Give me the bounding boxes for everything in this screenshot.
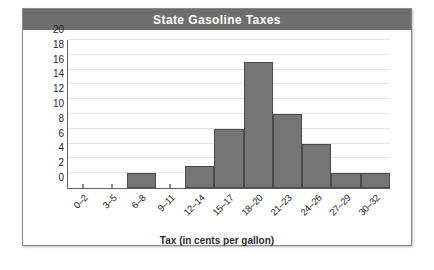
page-title: State Gasoline Taxes — [153, 13, 281, 27]
bar-slot — [156, 40, 185, 188]
bar — [331, 173, 360, 188]
y-axis-tick-label: 14 — [53, 68, 64, 79]
y-axis-tick-label: 16 — [53, 53, 64, 64]
x-tick-slot: 21–23 — [272, 190, 301, 238]
y-axis-tick-label: 2 — [58, 157, 64, 168]
x-axis-tick-label: 6–8 — [129, 192, 148, 211]
y-axis-tick-label: 18 — [53, 38, 64, 49]
bar — [214, 129, 243, 188]
bar-slot — [302, 40, 331, 188]
chart-title-bar: State Gasoline Taxes — [23, 9, 411, 30]
bar-slot — [68, 40, 97, 188]
bar-slot — [361, 40, 390, 188]
x-axis-tick-label: 0–2 — [71, 192, 90, 211]
x-tick-slot: 0–2 — [67, 190, 96, 238]
bar-slot — [185, 40, 214, 188]
y-axis-tick-label: 8 — [58, 112, 64, 123]
bar — [169, 184, 171, 188]
x-tick-slot: 3–5 — [96, 190, 125, 238]
x-axis-tick-label: 24–26 — [298, 192, 324, 218]
x-axis-tick-labels: 0–23–56–89–1112–1415–1718–2021–2324–2627… — [67, 190, 389, 238]
x-tick-slot: 18–20 — [243, 190, 272, 238]
y-axis-tick-label: 6 — [58, 127, 64, 138]
bar-slot — [244, 40, 273, 188]
x-axis-tick-label: 9–11 — [156, 192, 178, 214]
bar — [82, 184, 84, 188]
x-axis-title: Tax (in cents per gallon) — [23, 235, 411, 246]
y-axis-tick-label: 4 — [58, 142, 64, 153]
x-axis-tick-label: 21–23 — [269, 192, 295, 218]
bar — [302, 144, 331, 188]
chart-figure: State Gasoline Taxes Number of states 02… — [22, 8, 412, 246]
bar — [185, 166, 214, 188]
x-tick-slot: 30–32 — [360, 190, 389, 238]
bar — [361, 173, 390, 188]
bar — [244, 62, 273, 188]
x-axis-tick-label: 3–5 — [100, 192, 119, 211]
bar — [273, 114, 302, 188]
y-axis-tick-label: 20 — [53, 24, 64, 35]
bar — [127, 173, 156, 188]
bar-series — [68, 40, 390, 188]
y-axis-tick-label: 12 — [53, 83, 64, 94]
x-axis-tick-label: 15–17 — [210, 192, 236, 218]
plot-area: 02468101214161820 — [67, 40, 390, 189]
x-tick-slot: 9–11 — [155, 190, 184, 238]
x-axis-tick-label: 12–14 — [181, 192, 207, 218]
x-tick-slot: 15–17 — [213, 190, 242, 238]
bar-slot — [273, 40, 302, 188]
bar-slot — [127, 40, 156, 188]
x-tick-slot: 27–29 — [330, 190, 359, 238]
x-axis-tick-label: 27–29 — [327, 192, 353, 218]
y-axis-tick-label: 0 — [58, 172, 64, 183]
y-axis-tick-label: 10 — [53, 98, 64, 109]
x-axis-tick-label: 18–20 — [239, 192, 265, 218]
x-axis-tick-label: 30–32 — [356, 192, 382, 218]
bar-slot — [214, 40, 243, 188]
x-tick-slot: 12–14 — [184, 190, 213, 238]
x-tick-slot: 24–26 — [301, 190, 330, 238]
bar-slot — [331, 40, 360, 188]
bar — [111, 184, 113, 188]
bar-slot — [97, 40, 126, 188]
x-tick-slot: 6–8 — [126, 190, 155, 238]
plot-wrapper: Number of states 02468101214161820 0–23–… — [23, 30, 411, 245]
